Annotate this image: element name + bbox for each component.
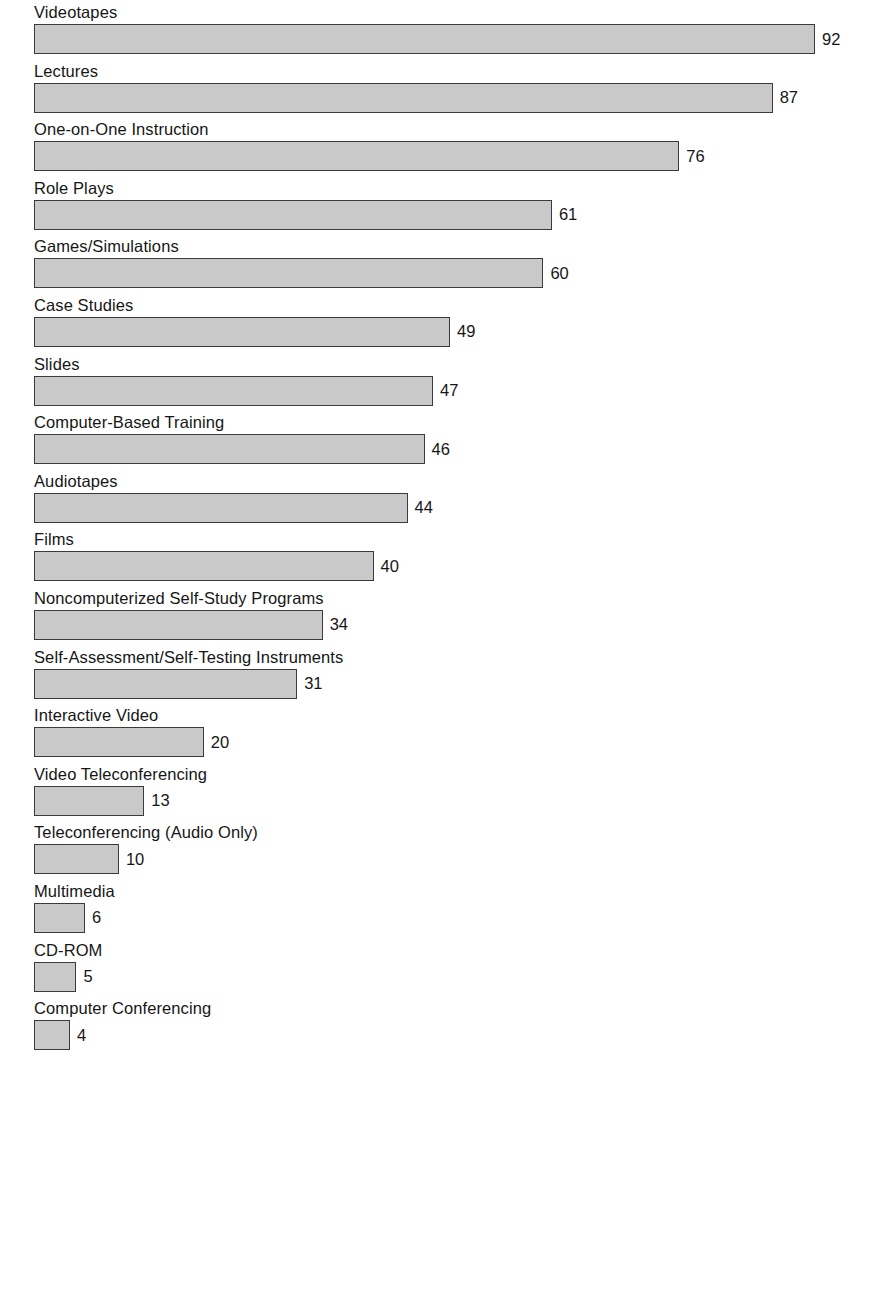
bar-value-label: 61 <box>559 206 577 223</box>
bar-value-label: 87 <box>780 89 798 106</box>
bar <box>34 376 433 406</box>
bar-category-label: Teleconferencing (Audio Only) <box>34 824 870 844</box>
bar-value-label: 20 <box>211 734 229 751</box>
bar <box>34 786 144 816</box>
bar-group: Interactive Video20 <box>0 707 870 757</box>
bar <box>34 24 815 54</box>
bar-category-label: Noncomputerized Self-Study Programs <box>34 590 870 610</box>
bar-group: Lectures87 <box>0 63 870 113</box>
bar-category-label: Slides <box>34 356 870 376</box>
bar-group: Slides47 <box>0 356 870 406</box>
bar-group: Case Studies49 <box>0 297 870 347</box>
bar-value-label: 46 <box>432 441 450 458</box>
bar-row: 13 <box>34 786 870 816</box>
bar-value-label: 5 <box>83 968 92 985</box>
bar-value-label: 47 <box>440 382 458 399</box>
bar-row: 34 <box>34 610 870 640</box>
bar <box>34 200 552 230</box>
bar-row: 76 <box>34 141 870 171</box>
bar-row: 60 <box>34 258 870 288</box>
bar-row: 49 <box>34 317 870 347</box>
bar <box>34 962 76 992</box>
bar-category-label: Case Studies <box>34 297 870 317</box>
bar-value-label: 40 <box>381 558 399 575</box>
bar-row: 20 <box>34 727 870 757</box>
bar <box>34 1020 70 1050</box>
bar-group: CD-ROM5 <box>0 942 870 992</box>
bar-category-label: Video Teleconferencing <box>34 766 870 786</box>
bar <box>34 727 204 757</box>
bar-category-label: CD-ROM <box>34 942 870 962</box>
bar-group: Role Plays61 <box>0 180 870 230</box>
bar-row: 92 <box>34 24 870 54</box>
bar-group: Videotapes92 <box>0 4 870 54</box>
bar <box>34 434 425 464</box>
bar-row: 44 <box>34 493 870 523</box>
bar <box>34 83 773 113</box>
bar-category-label: Interactive Video <box>34 707 870 727</box>
bar-category-label: Videotapes <box>34 4 870 24</box>
bar <box>34 551 374 581</box>
bar-group: Computer Conferencing4 <box>0 1000 870 1050</box>
bar-value-label: 60 <box>550 265 568 282</box>
bar-category-label: Lectures <box>34 63 870 83</box>
bar-value-label: 92 <box>822 31 840 48</box>
bar-value-label: 13 <box>151 792 169 809</box>
bar-group: Films40 <box>0 531 870 581</box>
bar-group: One-on-One Instruction76 <box>0 121 870 171</box>
bar-category-label: Multimedia <box>34 883 870 903</box>
bar-value-label: 6 <box>92 909 101 926</box>
bar-value-label: 4 <box>77 1027 86 1044</box>
bar-row: 46 <box>34 434 870 464</box>
bar-row: 61 <box>34 200 870 230</box>
bar-value-label: 34 <box>330 616 348 633</box>
bar-row: 47 <box>34 376 870 406</box>
bar-category-label: One-on-One Instruction <box>34 121 870 141</box>
bar <box>34 317 450 347</box>
bar-category-label: Computer-Based Training <box>34 414 870 434</box>
bar-row: 40 <box>34 551 870 581</box>
bar-value-label: 31 <box>304 675 322 692</box>
bar-category-label: Computer Conferencing <box>34 1000 870 1020</box>
bar-group: Multimedia6 <box>0 883 870 933</box>
bar-group: Video Teleconferencing13 <box>0 766 870 816</box>
bar <box>34 669 297 699</box>
bar-row: 87 <box>34 83 870 113</box>
bar <box>34 493 408 523</box>
bar-category-label: Films <box>34 531 870 551</box>
bar-category-label: Games/Simulations <box>34 238 870 258</box>
bar-value-label: 44 <box>415 499 433 516</box>
bar-category-label: Self-Assessment/Self-Testing Instruments <box>34 649 870 669</box>
bar-group: Self-Assessment/Self-Testing Instruments… <box>0 649 870 699</box>
bar <box>34 844 119 874</box>
bar <box>34 258 543 288</box>
bar-row: 6 <box>34 903 870 933</box>
bar-category-label: Role Plays <box>34 180 870 200</box>
bar-row: 31 <box>34 669 870 699</box>
bar-row: 4 <box>34 1020 870 1050</box>
bar-value-label: 49 <box>457 323 475 340</box>
bar-group: Games/Simulations60 <box>0 238 870 288</box>
horizontal-bar-chart: Videotapes92Lectures87One-on-One Instruc… <box>0 0 870 1308</box>
bar-row: 10 <box>34 844 870 874</box>
bar-category-label: Audiotapes <box>34 473 870 493</box>
bar-group: Audiotapes44 <box>0 473 870 523</box>
bar-group: Computer-Based Training46 <box>0 414 870 464</box>
bar-value-label: 76 <box>686 148 704 165</box>
bar-row: 5 <box>34 962 870 992</box>
bar <box>34 903 85 933</box>
bar <box>34 610 323 640</box>
bar-group: Noncomputerized Self-Study Programs34 <box>0 590 870 640</box>
bar <box>34 141 679 171</box>
bar-value-label: 10 <box>126 851 144 868</box>
bar-group: Teleconferencing (Audio Only)10 <box>0 824 870 874</box>
